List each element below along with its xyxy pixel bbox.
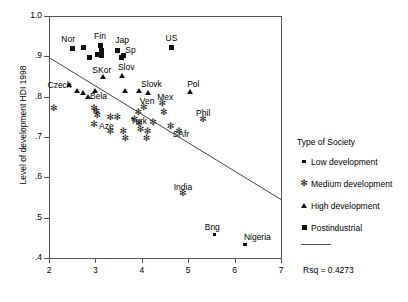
data-point [187, 89, 193, 94]
large-square-icon [297, 223, 311, 232]
data-point [81, 45, 86, 50]
data-point [169, 45, 174, 50]
chart-root: .4.5.6.7.8.91.0 234567 Level of developm… [0, 0, 408, 302]
legend-line-sample [301, 244, 331, 245]
legend-item-large-square[interactable]: Postindustrial [297, 222, 403, 233]
data-point-label: Ven [140, 97, 155, 106]
legend-item-label: High development [311, 201, 380, 211]
data-point [119, 73, 125, 78]
data-point-label: Jap [115, 36, 129, 45]
legend: Type of Society Low development✻Medium d… [297, 137, 403, 245]
data-point-label: Fin [94, 32, 106, 41]
data-point [70, 46, 75, 51]
x-tick-label: 3 [85, 265, 105, 275]
data-point-label: Slov [118, 63, 135, 72]
data-point-label: Czech [48, 81, 72, 90]
legend-title: Type of Society [297, 137, 403, 147]
legend-item-label: Postindustrial [311, 223, 362, 233]
asterisk-icon: ✻ [297, 179, 311, 188]
y-axis-label: Level of development HDI 1998 [18, 30, 28, 220]
legend-item-asterisk[interactable]: ✻Medium development [297, 178, 403, 189]
data-point: ✻ [50, 104, 58, 113]
rsq-annotation: Rsq = 0.4273 [303, 265, 354, 275]
data-point-label: Bng [205, 223, 220, 232]
x-tick [142, 258, 143, 263]
data-point-label: Pol [187, 80, 199, 89]
data-point-label: SKor [92, 66, 111, 75]
x-tick-label: 2 [39, 265, 59, 275]
legend-item-triangle[interactable]: High development [297, 200, 403, 211]
data-point [87, 55, 92, 60]
data-point [243, 243, 247, 247]
data-point: ✻ [90, 120, 98, 129]
data-point-label: Phil [196, 109, 210, 118]
x-tick [235, 258, 236, 263]
data-point-label: SAfr [173, 130, 190, 139]
plot-area: ✻✻✻✻✻✻✻✻✻✻✻✻✻✻✻✻✻✻✻✻✻✻✻✻ BngNigeriaAzeTu… [50, 17, 281, 258]
axis-bottom-spine [49, 258, 282, 259]
x-tick-label: 5 [178, 265, 198, 275]
x-tick-label: 7 [271, 265, 291, 275]
data-point: ✻ [113, 113, 121, 122]
legend-items: Low development✻Medium developmentHigh d… [297, 156, 403, 233]
data-point: ✻ [143, 134, 151, 143]
data-point-label: India [174, 183, 192, 192]
x-tick-label: 4 [132, 265, 152, 275]
x-tick [281, 258, 282, 263]
data-point: ✻ [121, 134, 129, 143]
data-point-label: Slovk [141, 80, 162, 89]
data-point-label: Nigeria [244, 233, 271, 242]
data-point-label: Bela [90, 92, 107, 101]
data-point-label: Sp [125, 46, 135, 55]
y-tick-label: 1.0 [0, 11, 42, 20]
data-point-label: Turk [130, 117, 147, 126]
x-tick [188, 258, 189, 263]
data-point [74, 88, 80, 93]
axis-right-spine [281, 16, 282, 259]
small-square-icon [297, 157, 311, 166]
legend-item-label: Low development [311, 157, 378, 167]
x-tick-label: 6 [225, 265, 245, 275]
legend-item-small-square[interactable]: Low development [297, 156, 403, 167]
data-point-label: Nor [61, 35, 75, 44]
data-point [213, 233, 217, 237]
data-point [122, 88, 128, 93]
data-point [95, 52, 100, 57]
data-point: ✻ [149, 118, 157, 127]
data-point: ✻ [160, 108, 168, 117]
data-point-label: Mex [157, 93, 173, 102]
data-point [119, 55, 124, 60]
x-tick [95, 258, 96, 263]
data-point [115, 48, 120, 53]
legend-item-label: Medium development [311, 179, 392, 189]
data-point-label: US [166, 34, 178, 43]
triangle-icon [297, 201, 311, 210]
data-point [99, 53, 104, 58]
y-tick-label: .4 [0, 253, 42, 262]
data-point-label: Aze [99, 122, 114, 131]
x-tick [49, 258, 50, 263]
data-point [145, 90, 151, 95]
